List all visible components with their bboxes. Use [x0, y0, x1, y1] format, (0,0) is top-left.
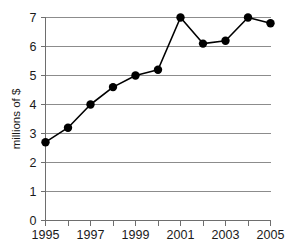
data-point-2000	[154, 66, 162, 74]
y-axis-title-text: millions of $	[10, 88, 22, 149]
data-point-2003	[221, 37, 229, 45]
y-tick-label-2: 2	[30, 156, 37, 170]
x-tick-label-1995: 1995	[32, 228, 60, 242]
y-axis-title: millions of $	[10, 88, 22, 149]
x-tick-label-2005: 2005	[257, 228, 285, 242]
line-chart: 01234567 199519971999200120032005 millio…	[0, 0, 287, 249]
y-tick-label-6: 6	[30, 40, 37, 54]
data-point-1996	[64, 124, 72, 132]
y-tick-label-3: 3	[30, 127, 37, 141]
data-point-2004	[244, 13, 252, 21]
y-tick-label-0: 0	[30, 214, 37, 228]
chart-background	[0, 0, 287, 249]
data-point-1998	[109, 83, 117, 91]
y-tick-label-7: 7	[30, 11, 37, 25]
y-tick-label-1: 1	[30, 185, 37, 199]
chart-canvas: 01234567 199519971999200120032005 millio…	[0, 0, 287, 249]
data-point-1995	[41, 138, 49, 146]
data-point-1999	[131, 71, 139, 79]
data-point-2005	[266, 19, 274, 27]
y-tick-label-4: 4	[30, 98, 37, 112]
x-tick-label-1999: 1999	[122, 228, 150, 242]
data-point-2002	[199, 39, 207, 47]
data-point-2001	[176, 13, 184, 21]
x-tick-label-1997: 1997	[77, 228, 105, 242]
data-point-1997	[86, 100, 94, 108]
x-tick-label-2003: 2003	[212, 228, 240, 242]
y-tick-label-5: 5	[30, 69, 37, 83]
x-tick-label-2001: 2001	[167, 228, 195, 242]
